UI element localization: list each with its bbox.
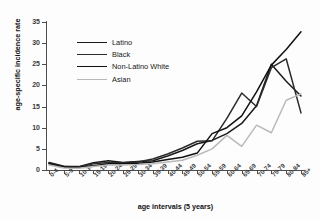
legend-label: Non-Latino White [112,62,169,71]
y-tick-label: 15 [0,103,40,110]
legend-label: Latino [112,38,132,47]
chart-legend: LatinoBlackNon-Latino WhiteAsian [77,38,169,84]
y-tick-label: 30 [0,39,40,46]
chart-figure: age-specific incidence rate 051015202530… [0,0,320,220]
legend-label: Asian [112,75,131,84]
y-tick [42,170,46,171]
y-tick-label: 10 [0,124,40,131]
legend-item-asian[interactable]: Asian [77,75,169,84]
legend-item-non-latino-white[interactable]: Non-Latino White [77,62,169,71]
series-line-asian [49,94,301,168]
y-tick-label: 20 [0,81,40,88]
legend-item-black[interactable]: Black [77,50,169,59]
y-tick-label: 35 [0,18,40,25]
legend-swatch-icon [77,42,107,43]
y-tick-label: 25 [0,60,40,67]
legend-swatch-icon [77,54,107,55]
legend-item-latino[interactable]: Latino [77,38,169,47]
y-tick-label: 5 [0,145,40,152]
legend-label: Black [112,50,130,59]
y-tick-label: 0 [0,166,40,173]
x-axis-title: age intervals (5 years) [46,202,305,211]
legend-swatch-icon [77,66,107,67]
legend-swatch-icon [77,79,107,80]
